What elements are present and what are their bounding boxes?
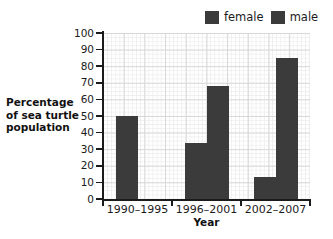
y-tick-label: 50	[68, 111, 94, 122]
y-tick-label: 10	[68, 177, 94, 188]
chart-legend: female male	[205, 9, 318, 25]
bar-series-layer	[103, 33, 310, 199]
y-tick-label: 90	[68, 44, 94, 55]
legend-entry-female: female	[205, 11, 264, 24]
legend-entry-male: male	[271, 11, 319, 24]
y-tick-label: 70	[68, 77, 94, 88]
y-tick-label: 100	[68, 28, 94, 39]
legend-swatch-female-icon	[205, 11, 219, 24]
bar-male-3	[276, 58, 298, 199]
y-tick-label: 0	[68, 194, 94, 205]
legend-label-female: female	[224, 11, 264, 24]
y-tick-label: 20	[68, 160, 94, 171]
bar-chart: female male Percentage of sea turtle pop…	[0, 0, 333, 239]
legend-label-male: male	[290, 11, 319, 24]
bar-female-3	[254, 177, 276, 199]
legend-swatch-male-icon	[271, 11, 285, 24]
y-tick-label: 30	[68, 144, 94, 155]
x-axis-title: Year	[103, 216, 310, 228]
bar-male-2	[207, 86, 229, 199]
y-tick-label: 40	[68, 127, 94, 138]
bar-female-1	[116, 116, 138, 199]
x-category-label: 2002–2007	[241, 203, 310, 216]
x-axis-line	[102, 199, 311, 201]
bar-female-2	[185, 143, 207, 199]
y-tick-label: 60	[68, 94, 94, 105]
y-tick-label: 80	[68, 61, 94, 72]
x-category-label: 1996–2001	[172, 203, 241, 216]
x-category-label: 1990–1995	[103, 203, 172, 216]
